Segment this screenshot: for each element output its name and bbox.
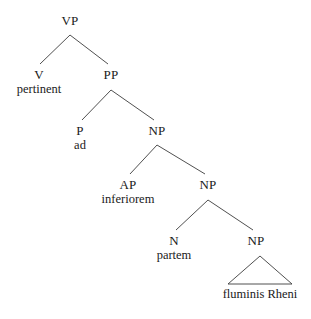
node-ap: AP inferiorem [102, 178, 155, 206]
node-np-1-label: NP [148, 124, 165, 138]
node-v-label: V [17, 68, 61, 82]
node-ap-label: AP [102, 178, 155, 192]
node-ap-word: inferiorem [102, 193, 155, 206]
node-vp: VP [61, 14, 78, 28]
node-n-label: N [157, 234, 192, 248]
node-np-2-label: NP [199, 178, 216, 192]
node-v: V pertinent [17, 68, 61, 96]
node-np-2: NP [199, 178, 216, 192]
edge-vp-pp [70, 35, 108, 64]
phrase-triangle [228, 256, 292, 284]
node-pp: PP [104, 68, 119, 82]
node-pp-label: PP [104, 68, 119, 82]
node-p: P ad [74, 124, 86, 152]
edge-pp-np [111, 90, 154, 120]
node-np-3-label: NP [247, 234, 264, 248]
edge-np-np [157, 145, 205, 174]
node-vp-label: VP [61, 14, 78, 28]
leaf-phrase-fluminis-rheni: fluminis Rheni [223, 287, 298, 302]
edge-pp-p [82, 90, 111, 120]
edge-np-ap [130, 145, 157, 174]
node-v-word: pertinent [17, 83, 61, 96]
node-np-1: NP [148, 124, 165, 138]
node-np-3: NP [247, 234, 264, 248]
node-n: N partem [157, 234, 192, 262]
edge-np2-np3 [208, 200, 253, 230]
tree-edges-layer [0, 0, 311, 319]
node-p-label: P [74, 124, 86, 138]
node-p-word: ad [74, 139, 86, 152]
edge-vp-v [40, 35, 70, 64]
edge-np2-n [176, 200, 208, 230]
node-n-word: partem [157, 249, 192, 262]
syntax-tree-figure: VP V pertinent PP P ad NP AP inferiorem … [0, 0, 311, 319]
